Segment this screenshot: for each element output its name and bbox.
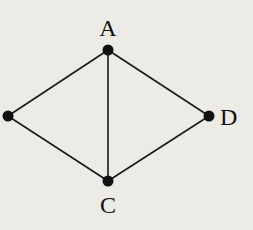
edge-c-d: [108, 116, 209, 181]
edge-a-b: [8, 50, 108, 116]
vertex-a: [103, 45, 114, 56]
vertex-label-c: C: [100, 192, 116, 218]
graph-diagram: ACD: [0, 0, 253, 230]
vertex-d: [204, 111, 215, 122]
vertex-label-d: D: [220, 104, 237, 130]
edge-a-d: [108, 50, 209, 116]
vertex-label-a: A: [99, 15, 117, 41]
vertex-b: [3, 111, 14, 122]
diagram-canvas: ACD: [0, 0, 253, 230]
edge-b-c: [8, 116, 108, 181]
vertex-c: [103, 176, 114, 187]
